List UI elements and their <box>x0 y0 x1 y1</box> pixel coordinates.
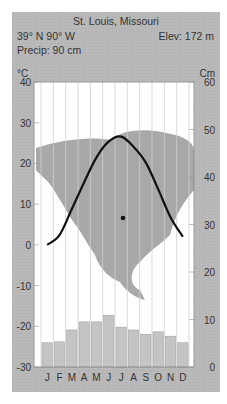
left-axis-tick-label: 40 <box>20 77 32 88</box>
precipitation-bar <box>42 343 52 367</box>
right-axis-tick-label: 60 <box>204 77 216 88</box>
month-label: N <box>167 372 174 383</box>
right-axis-tick-label: 50 <box>204 125 216 136</box>
precipitation-bar <box>54 342 64 367</box>
right-axis-tick-label: 0 <box>209 362 215 373</box>
left-axis-tick-label: 0 <box>25 240 31 251</box>
precipitation-bar <box>141 334 151 367</box>
left-axis-tick-label: 20 <box>20 158 32 169</box>
month-label: M <box>92 372 100 383</box>
left-axis-tick-label: -20 <box>17 321 32 332</box>
month-label: J <box>106 372 111 383</box>
month-label: J <box>45 372 50 383</box>
right-axis-tick-label: 20 <box>204 267 216 278</box>
precipitation-bar <box>67 330 77 367</box>
left-axis-tick-label: 30 <box>20 118 32 129</box>
precipitation-bar <box>128 330 138 367</box>
right-axis-tick-label: 10 <box>204 315 216 326</box>
left-axis-tick-label: -10 <box>17 281 32 292</box>
precipitation-bar <box>178 343 188 367</box>
location-marker-dot <box>121 216 126 221</box>
month-label: M <box>68 372 76 383</box>
precipitation-bar <box>165 336 175 367</box>
left-axis-tick-label: 10 <box>20 199 32 210</box>
precipitation-bar <box>79 322 89 367</box>
right-axis-tick-label: 40 <box>204 172 216 183</box>
left-axis-tick-label: -30 <box>17 362 32 373</box>
month-label: D <box>179 372 186 383</box>
month-label: S <box>142 372 149 383</box>
month-label: A <box>130 372 137 383</box>
precipitation-bar <box>91 322 101 367</box>
month-label: A <box>81 372 88 383</box>
month-label: F <box>56 372 62 383</box>
month-label: O <box>154 372 162 383</box>
precipitation-bar <box>116 327 126 367</box>
month-label: J <box>119 372 124 383</box>
precipitation-bar <box>153 332 163 367</box>
precipitation-bar <box>104 315 114 367</box>
climograph-chart: 403020100-10-20-306050403020100JFMAMJJAS… <box>0 0 227 404</box>
right-axis-tick-label: 30 <box>204 220 216 231</box>
